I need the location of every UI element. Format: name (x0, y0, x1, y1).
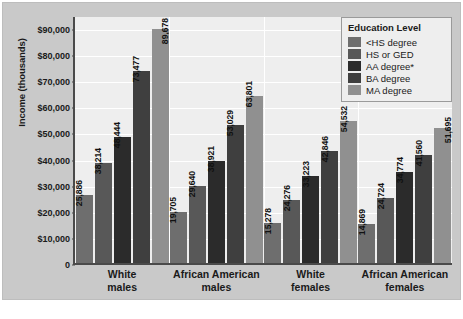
bar-slot: 25,886 (76, 17, 93, 263)
bar[interactable]: 54,532 (340, 121, 357, 263)
bar[interactable]: 73,477 (133, 71, 150, 263)
y-tick-label: $30,000 (37, 182, 70, 192)
bar-value-label: 34,774 (395, 157, 405, 183)
bar-slot: 89,678 (152, 17, 169, 263)
legend: Education Level <HS degreeHS or GEDAA de… (341, 17, 452, 102)
bar[interactable]: 14,869 (358, 224, 375, 263)
y-tick-label: $10,000 (37, 234, 70, 244)
y-tick-mark (72, 265, 75, 266)
x-axis-group-label-line: males (169, 281, 263, 294)
bar-value-label: 38,921 (206, 146, 216, 172)
y-axis-title: Income (thousands) (16, 3, 27, 163)
y-tick-label: $80,000 (37, 51, 70, 61)
bar[interactable]: 34,774 (396, 172, 413, 263)
legend-item[interactable]: BA degree (348, 72, 445, 84)
bar-slot: 15,278 (264, 17, 281, 263)
x-axis-group-label-line: females (264, 281, 358, 294)
bar[interactable]: 38,921 (208, 161, 225, 263)
bar[interactable]: 29,640 (189, 186, 206, 263)
bar[interactable]: 24,724 (377, 198, 394, 263)
x-axis-group-label-line: African American (169, 268, 263, 281)
legend-item[interactable]: HS or GED (348, 48, 445, 60)
bar[interactable]: 42,846 (321, 151, 338, 263)
chart-root: Income (thousands) 0$10,000$20,000$30,00… (0, 0, 463, 319)
bar[interactable]: 15,278 (264, 223, 281, 263)
bar-value-label: 38,214 (93, 148, 103, 174)
y-tick-label: $90,000 (37, 25, 70, 35)
bar-slot: 19,705 (170, 17, 187, 263)
legend-swatch (348, 61, 361, 71)
bar-slot: 24,276 (283, 17, 300, 263)
legend-label: AA degree* (366, 61, 414, 72)
bar[interactable]: 53,029 (227, 125, 244, 263)
bar-slot: 42,846 (321, 17, 338, 263)
y-tick-label: $60,000 (37, 103, 70, 113)
bar[interactable]: 63,801 (246, 96, 263, 263)
x-axis-group-label-line: African American (358, 268, 452, 281)
legend-title: Education Level (348, 22, 445, 33)
bar[interactable]: 38,214 (95, 163, 112, 263)
legend-item[interactable]: AA degree* (348, 60, 445, 72)
bar[interactable]: 89,678 (152, 29, 169, 263)
y-tick-label: $20,000 (37, 208, 70, 218)
bar-value-label: 73,477 (131, 56, 141, 82)
bar-group: 19,70529,64038,92153,02963,801African Am… (169, 17, 263, 263)
figure-panel: Income (thousands) 0$10,000$20,000$30,00… (2, 2, 461, 300)
legend-swatch (348, 85, 361, 95)
legend-label: <HS degree (366, 37, 417, 48)
bar-slot: 38,214 (95, 17, 112, 263)
bar-value-label: 19,705 (168, 196, 178, 222)
bar[interactable]: 19,705 (170, 212, 187, 263)
bar-value-label: 24,724 (376, 183, 386, 209)
bar-slot: 53,029 (227, 17, 244, 263)
x-axis-group-label-line: females (358, 281, 452, 294)
bar-value-label: 54,532 (339, 106, 349, 132)
bar-slot: 48,444 (114, 17, 131, 263)
legend-label: HS or GED (366, 49, 414, 60)
legend-swatch (348, 49, 361, 59)
bar[interactable]: 48,444 (114, 137, 131, 263)
y-tick-label: $50,000 (37, 129, 70, 139)
y-tick-label: $70,000 (37, 77, 70, 87)
bar[interactable]: 41,560 (415, 155, 432, 263)
legend-swatch (348, 37, 361, 47)
y-tick-label: 0 (65, 260, 70, 270)
x-axis-group-label-line: White (264, 268, 358, 281)
bar-value-label: 48,444 (112, 121, 122, 147)
bar-value-label: 51,695 (443, 117, 453, 143)
bar[interactable]: 33,223 (302, 176, 319, 263)
chart-footnote (4, 303, 459, 317)
x-axis-group-label: Whitemales (75, 268, 169, 294)
bar-value-label: 14,869 (357, 209, 367, 235)
bar-value-label: 33,223 (301, 161, 311, 187)
x-axis-group-label: African Americanmales (169, 268, 263, 294)
bar-group: 25,88638,21448,44473,47789,678Whitemales (75, 17, 169, 263)
bar-value-label: 63,801 (244, 81, 254, 107)
legend-item[interactable]: MA degree (348, 84, 445, 96)
x-axis-group-label: Whitefemales (264, 268, 358, 294)
legend-item[interactable]: <HS degree (348, 36, 445, 48)
legend-label: MA degree (366, 85, 412, 96)
bar-slot: 29,640 (189, 17, 206, 263)
bar-slot: 33,223 (302, 17, 319, 263)
bar[interactable]: 24,276 (283, 200, 300, 263)
bar-value-label: 25,886 (74, 180, 84, 206)
bar[interactable]: 51,695 (434, 128, 451, 263)
bar-slot: 73,477 (133, 17, 150, 263)
bar-value-label: 42,846 (320, 136, 330, 162)
legend-swatch (348, 73, 361, 83)
x-axis-group-label-line: males (75, 281, 169, 294)
x-axis-group-label-line: White (75, 268, 169, 281)
y-tick-label: $40,000 (37, 156, 70, 166)
bar-value-label: 24,276 (282, 184, 292, 210)
x-axis-group-label: African Americanfemales (358, 268, 452, 294)
bar-value-label: 29,640 (187, 170, 197, 196)
bar-slot: 63,801 (246, 17, 263, 263)
bar-value-label: 41,560 (414, 139, 424, 165)
bar[interactable]: 25,886 (76, 195, 93, 263)
legend-items: <HS degreeHS or GEDAA degree*BA degreeMA… (348, 36, 445, 96)
bar-value-label: 53,029 (225, 109, 235, 135)
legend-label: BA degree (366, 73, 410, 84)
bar-value-label: 15,278 (263, 208, 273, 234)
bar-slot: 38,921 (208, 17, 225, 263)
